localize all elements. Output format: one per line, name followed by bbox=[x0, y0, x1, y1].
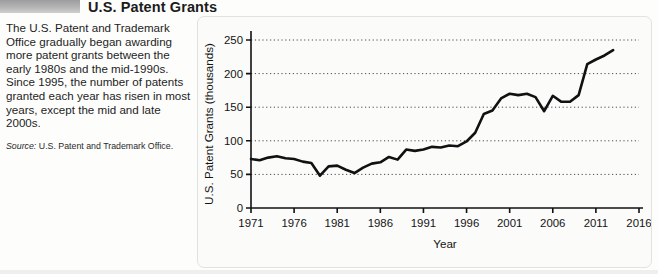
x-tick-label: 2016 bbox=[626, 217, 651, 229]
line-chart: 0501001502002501971197619811986199119962… bbox=[198, 17, 652, 268]
data-series-line bbox=[251, 50, 613, 176]
page-bottom-edge bbox=[0, 270, 658, 274]
figure-description-column: The U.S. Patent and Trademark Office gra… bbox=[6, 21, 194, 152]
x-axis-title: Year bbox=[433, 237, 457, 250]
decorative-corner-band bbox=[0, 0, 80, 13]
y-axis-title: U.S. Patent Grants (thousands) bbox=[202, 43, 215, 205]
x-tick-label: 1996 bbox=[454, 217, 479, 229]
y-tick-label: 200 bbox=[224, 68, 243, 80]
y-tick-label: 100 bbox=[224, 135, 243, 147]
x-tick-label: 1991 bbox=[411, 217, 436, 229]
source-value: U.S. Patent and Trademark Office. bbox=[36, 141, 173, 151]
y-tick-label: 250 bbox=[224, 34, 243, 46]
source-label: Source: bbox=[6, 141, 36, 151]
x-tick-label: 2001 bbox=[497, 217, 522, 229]
x-tick-label: 1986 bbox=[368, 217, 393, 229]
x-tick-label: 1981 bbox=[325, 217, 350, 229]
figure-blurb: The U.S. Patent and Trademark Office gra… bbox=[6, 21, 194, 130]
y-tick-label: 50 bbox=[230, 168, 243, 180]
figure-root: U.S. Patent Grants The U.S. Patent and T… bbox=[0, 0, 658, 274]
figure-title: U.S. Patent Grants bbox=[88, 0, 217, 15]
figure-source: Source: U.S. Patent and Trademark Office… bbox=[6, 141, 194, 152]
x-tick-label: 1971 bbox=[238, 217, 263, 229]
x-tick-label: 2006 bbox=[540, 217, 565, 229]
x-tick-label: 1976 bbox=[281, 217, 306, 229]
chart-panel: 0501001502002501971197619811986199119962… bbox=[197, 16, 652, 268]
x-tick-label: 2011 bbox=[584, 217, 609, 229]
y-tick-label: 0 bbox=[237, 202, 243, 214]
y-tick-label: 150 bbox=[224, 101, 243, 113]
